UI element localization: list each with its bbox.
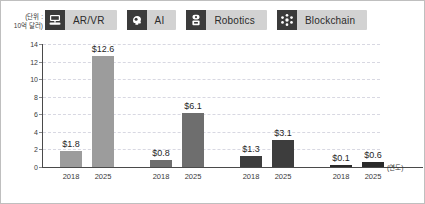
chart-legend: AR/VRAIRoboticsBlockchain (45, 10, 367, 30)
bar-ar-vr-2018: $1.82018 (60, 151, 82, 167)
y-axis-tick-mark (39, 97, 42, 98)
y-axis-tick-mark (39, 44, 42, 45)
bar-value-label: $12.6 (92, 44, 115, 54)
bar-value-label: $0.8 (152, 148, 170, 158)
blockchain-nodes-icon (277, 10, 297, 30)
x-axis-tick-label: 2018 (243, 172, 260, 181)
legend-item-ar-vr: AR/VR (45, 10, 117, 30)
bar-value-label: $0.1 (332, 153, 350, 163)
x-axis-line (42, 167, 380, 168)
legend-item-ai: AI (127, 10, 177, 30)
legend-item-robotics: Robotics (186, 10, 267, 30)
ai-brain-head-icon (127, 10, 147, 30)
bar-robotics-2018: $1.32018 (240, 156, 262, 167)
y-axis-tick-label: 14 (30, 41, 38, 48)
x-axis-tick-label: 2018 (333, 172, 350, 181)
legend-item-label: Robotics (214, 15, 255, 26)
bar-value-label: $1.3 (242, 144, 260, 154)
y-axis-tick-label: 6 (34, 111, 38, 118)
y-axis-tick-label: 8 (34, 93, 38, 100)
bar-blockchain-2018: $0.12018 (330, 165, 352, 167)
x-axis-title: (연도) (387, 162, 403, 172)
robot-icon (186, 10, 206, 30)
bar-value-label: $1.8 (62, 139, 80, 149)
y-axis-tick-mark (39, 114, 42, 115)
unit-caption-line2: 10억 달러) (7, 21, 43, 30)
x-axis-tick-label: 2018 (63, 172, 80, 181)
bar-ar-vr-2025: $12.62025 (92, 56, 114, 167)
y-axis-tick-label: 4 (34, 128, 38, 135)
y-axis-tick-label: 2 (34, 146, 38, 153)
y-axis-tick-label: 12 (30, 58, 38, 65)
y-axis-tick-label: 10 (30, 76, 38, 83)
bar-value-label: $3.1 (274, 128, 292, 138)
legend-item-label: AR/VR (73, 15, 105, 26)
bar-ai-2025: $6.12025 (182, 113, 204, 167)
y-axis-tick-mark (39, 167, 42, 168)
x-axis-tick-label: 2018 (153, 172, 170, 181)
x-axis-tick-label: 2025 (185, 172, 202, 181)
plot-area: 14121086420$1.82018$12.62025$0.82018$6.1… (42, 44, 380, 168)
y-axis-tick-mark (39, 62, 42, 63)
unit-caption-line1: (단위 : (7, 12, 43, 21)
bar-value-label: $0.6 (364, 150, 382, 160)
bar-blockchain-2025: $0.62025 (362, 162, 384, 167)
y-axis-tick-mark (39, 79, 42, 80)
y-axis-tick-label: 0 (34, 164, 38, 171)
legend-item-label: AI (155, 15, 165, 26)
legend-item-blockchain: Blockchain (277, 10, 367, 30)
x-axis-tick-label: 2025 (95, 172, 112, 181)
chart-screenshot: (단위 : 10억 달러) AR/VRAIRoboticsBlockchain … (0, 0, 425, 204)
x-axis-tick-label: 2025 (365, 172, 382, 181)
bar-value-label: $6.1 (184, 101, 202, 111)
bar-robotics-2025: $3.12025 (272, 140, 294, 167)
legend-item-label: Blockchain (305, 15, 355, 26)
unit-caption: (단위 : 10억 달러) (7, 12, 43, 30)
x-axis-tick-label: 2025 (275, 172, 292, 181)
ar-vr-headset-icon (45, 10, 65, 30)
bar-ai-2018: $0.82018 (150, 160, 172, 167)
y-axis-tick-mark (39, 149, 42, 150)
y-axis-tick-mark (39, 132, 42, 133)
